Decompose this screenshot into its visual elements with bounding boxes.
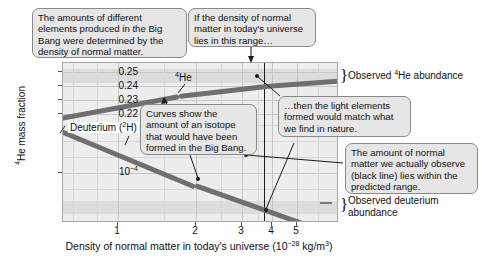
ytick-0p25: 0.25 [119,66,138,77]
he4-curve-segment-3 [267,79,338,89]
x-axis-title-exponent: −28 [288,240,300,247]
ytick-1e-4: 10−4 [119,166,138,177]
x-axis-title-unit: kg/m [299,240,325,252]
tickmark-y-0p24 [58,85,62,86]
tickmark-y-0p25 [58,71,62,72]
xtick-5: 5 [287,225,305,236]
gridline-y-1e-4 [63,173,337,174]
callout-top-left: The amounts of different elements produc… [32,8,187,58]
gridline-y-0p25 [63,72,337,73]
callout-black-line-observed: The amount of normal matter we actually … [345,143,478,194]
ytick-0p23: 0.23 [119,94,138,105]
xtick-1: 1 [108,225,126,236]
callout-then-light-elements: …then the light elements formed would ma… [278,96,411,137]
x-axis-title-main: Density of normal matter in today's univ… [66,240,288,252]
xtick-3: 3 [232,225,250,236]
xtick-4: 4 [262,225,280,236]
ytick-0p24: 0.24 [119,80,138,91]
observed-deuterium-brace: } [340,200,348,210]
observed-deuterium-band [63,201,337,214]
figure-root: 0.25 0.24 0.23 0.22 10−4 1 2 3 4 5 4He m… [0,0,482,269]
tickmark-y-0p22 [58,113,62,114]
he4-curve-label: 4He [175,72,192,83]
gridline-y-log-b [63,157,337,158]
gridline-x-0p8 [97,63,98,221]
y-axis-title: 4He mass fraction [16,61,27,191]
y-axis-title-main: He mass fraction [16,86,27,161]
deuterium-curve-label: Deuterium (2H) [68,122,139,133]
observed-he4-brace: } [340,71,348,81]
gridline-x-0p6 [73,63,74,221]
tickmark-y-1e-4 [58,172,62,173]
gridline-x-6 [318,63,319,221]
ytick-0p22: 0.22 [119,108,138,119]
tickmark-y-0p23 [58,99,62,100]
observed-deuterium-label: Observed deuterium abundance [348,195,439,218]
callout-top-right: If the density of normal matter in today… [188,8,316,47]
y-axis-title-superscript: 4 [14,161,21,165]
gridline-y-log-d [63,205,337,206]
observed-deuterium-label-line1: Observed deuterium [348,195,439,206]
x-axis-title-close: ) [329,240,333,252]
xtick-2: 2 [186,225,204,236]
observed-deuterium-label-line2: abundance [348,207,398,218]
observed-he4-label: Observed 4He abundance [348,70,463,82]
callout-curves-show: Curves show the amount of an isotope tha… [140,104,257,155]
x-axis-title: Density of normal matter in today's univ… [44,240,354,252]
